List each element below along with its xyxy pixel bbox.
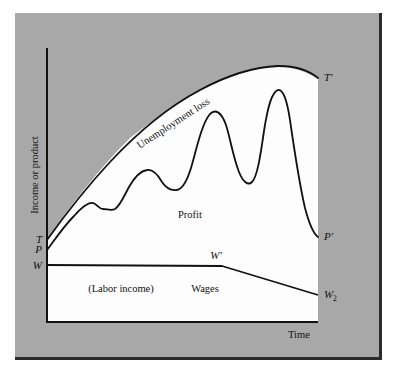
region-label-profit: Profit — [178, 209, 202, 220]
point-label-t-end: T' — [324, 71, 333, 83]
x-axis-label: Time — [288, 329, 310, 340]
region-label-labor-income: (Labor income) — [88, 283, 154, 295]
point-label-w-end-subscript: 2 — [333, 294, 337, 303]
economic-cycle-diagram: Income or product Time T P W T' P' W 2 W… — [0, 0, 398, 376]
point-label-p-end: P' — [323, 230, 334, 242]
point-label-w-end: W 2 — [324, 288, 337, 303]
point-label-w-start: W — [33, 259, 43, 271]
y-axis-label: Income or product — [29, 136, 40, 214]
point-label-p-start: P — [34, 243, 42, 255]
point-label-w-bend: W' — [210, 249, 222, 261]
figure-root: Income or product Time T P W T' P' W 2 W… — [0, 0, 398, 376]
region-label-wages: Wages — [191, 283, 219, 294]
